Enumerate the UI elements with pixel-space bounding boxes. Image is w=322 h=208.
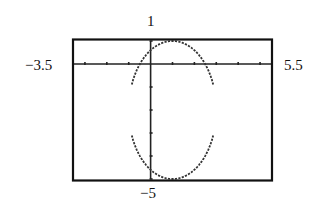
ellipse-curve — [132, 41, 213, 179]
axes — [74, 41, 271, 179]
graph-window — [0, 0, 322, 208]
graph-frame — [73, 40, 272, 181]
